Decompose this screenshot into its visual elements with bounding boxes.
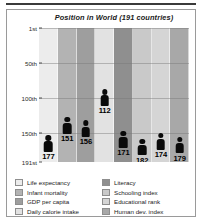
data-point-label: 177 — [39, 152, 63, 161]
legend-swatch-icon — [15, 208, 23, 215]
y-axis-tick-mark — [39, 162, 42, 163]
legend-item[interactable]: GDP per capita — [15, 197, 102, 206]
legend-item-label: Literacy — [114, 179, 136, 186]
data-point-label: 112 — [90, 106, 120, 115]
y-axis-tick-mark — [39, 28, 42, 29]
data-point-marker: 112 — [90, 89, 120, 115]
y-axis-tick-labels: 1st50th100th150th191st — [7, 28, 37, 162]
plot-area: 177151156112171182174179 — [39, 28, 189, 162]
figure-root: Position in World (191 countries) 1st50t… — [0, 0, 202, 221]
legend-item-label: Daily calorie intake — [27, 208, 79, 215]
person-icon — [90, 89, 120, 106]
legend-item[interactable]: Daily calorie intake — [15, 207, 102, 216]
y-axis-tick-label: 191st — [22, 159, 37, 166]
legend-item[interactable]: Literacy — [102, 178, 189, 187]
legend-item[interactable]: Life expectancy — [15, 178, 102, 187]
y-axis-tick-label: 50th — [25, 59, 37, 66]
legend-swatch-icon — [15, 179, 23, 186]
person-icon — [71, 120, 101, 137]
legend-swatch-icon — [102, 208, 110, 215]
legend-item[interactable]: Human dev. index — [102, 207, 189, 216]
y-axis-tick-mark — [39, 97, 42, 98]
legend-swatch-icon — [102, 189, 110, 196]
legend-swatch-icon — [102, 198, 110, 205]
legend-swatch-icon — [15, 198, 23, 205]
legend-item-label: GDP per capita — [27, 198, 69, 205]
legend-item[interactable]: Infant mortality — [15, 188, 102, 197]
legend-item[interactable]: Schooling index — [102, 188, 189, 197]
figure-frame: Position in World (191 countries) 1st50t… — [6, 9, 196, 217]
legend-column-left: Life expectancyInfant mortalityGDP per c… — [15, 178, 102, 216]
y-axis-tick-mark — [39, 133, 42, 134]
data-point-label: 156 — [71, 137, 101, 146]
legend-item-label: Educational rank — [114, 198, 160, 205]
person-icon — [165, 137, 189, 154]
y-axis-tick-label: 1st — [29, 25, 37, 32]
legend-item-label: Human dev. index — [114, 208, 163, 215]
legend-swatch-icon — [15, 189, 23, 196]
legend-item[interactable]: Educational rank — [102, 197, 189, 206]
legend-column-right: LiteracySchooling indexEducational rankH… — [102, 178, 189, 216]
y-axis-tick-mark — [39, 62, 42, 63]
legend-item-label: Schooling index — [114, 189, 158, 196]
legend-item-label: Infant mortality — [27, 189, 68, 196]
legend-swatch-icon — [102, 179, 110, 186]
y-axis-tick-label: 150th — [22, 130, 37, 137]
gridline — [39, 28, 189, 29]
chart-title: Position in World (191 countries) — [33, 13, 195, 22]
y-axis-tick-label: 100th — [22, 94, 37, 101]
plot-wrapper: 1st50th100th150th191st 17715115611217118… — [7, 23, 197, 175]
data-point-marker: 179 — [165, 137, 189, 162]
data-point-marker: 156 — [71, 120, 101, 146]
top-divider — [6, 3, 196, 5]
data-point-label: 179 — [165, 154, 189, 162]
legend: Life expectancyInfant mortalityGDP per c… — [15, 178, 189, 216]
gridline — [39, 63, 189, 64]
legend-item-label: Life expectancy — [27, 179, 70, 186]
